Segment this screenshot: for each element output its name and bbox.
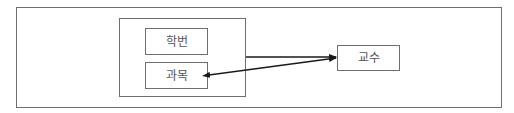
arrows-layer [0,0,514,113]
arrow-professor-to-subject [209,58,336,75]
